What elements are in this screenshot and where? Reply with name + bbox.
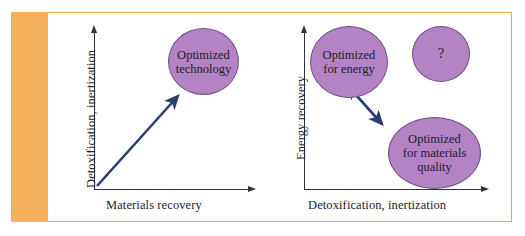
bubble-optimized-for-materials-quality[interactable]: Optimized for materials quality [388,117,481,189]
bubble-line-1: ? [438,46,444,62]
bubble-label: Optimized for materials quality [403,132,467,174]
bubble-line-2: for materials [403,146,467,160]
figure-root: Detoxification, inertization Materials r… [0,0,525,236]
chart-panel-right: Energy recovery Detoxification, inertiza… [263,12,512,222]
left-y-axis-label: Detoxification, inertization [84,50,99,188]
left-x-axis-line [94,189,249,190]
left-x-axis-arrowhead [248,186,256,192]
bubble-label: ? [438,46,444,62]
bubble-line-2: for energy [323,62,376,76]
bubble-line-1: Optimized [176,48,232,62]
left-y-axis-arrowhead [91,25,97,33]
bubble-optimized-technology[interactable]: Optimized technology [168,28,239,95]
bubble-optimized-for-energy[interactable]: Optimized for energy [310,26,388,98]
bubble-label: Optimized for energy [323,48,376,76]
right-x-axis-label: Detoxification, inertization [308,198,446,213]
bubble-line-1: Optimized [323,48,376,62]
chart-panel-left: Detoxification, inertization Materials r… [48,12,263,222]
right-x-axis-line [304,189,482,190]
bubble-line-2: technology [176,62,232,76]
bubble-line-3: quality [403,160,467,174]
left-x-axis-label: Materials recovery [106,198,202,213]
orange-accent-bar [11,12,48,222]
right-y-axis-label: Energy recovery [294,76,309,160]
bubble-line-1: Optimized [403,132,467,146]
bubble-unknown-question[interactable]: ? [412,26,470,82]
right-y-axis-arrowhead [301,25,307,33]
right-x-axis-arrowhead [481,186,489,192]
bubble-label: Optimized technology [176,48,232,76]
